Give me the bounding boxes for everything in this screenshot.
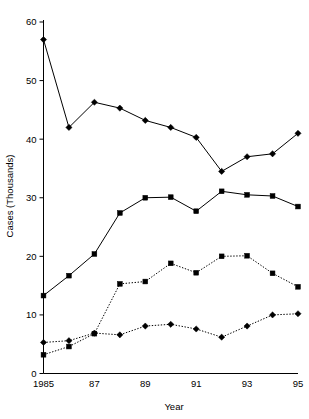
y-tick-label: 50 (26, 75, 37, 86)
data-point-diamond (168, 124, 174, 130)
data-point-diamond (193, 326, 199, 332)
y-tick-label: 20 (26, 251, 37, 262)
data-point-diamond (295, 311, 301, 317)
x-tick-label: 87 (89, 378, 100, 389)
data-point-diamond (244, 154, 250, 160)
data-point-diamond (117, 105, 123, 111)
data-point-square (41, 352, 46, 357)
data-point-diamond (142, 117, 148, 123)
data-point-diamond (168, 321, 174, 327)
series-line (44, 191, 299, 295)
series-line (44, 40, 299, 172)
series-2 (41, 189, 300, 298)
series-1 (40, 36, 301, 174)
data-series-group (40, 36, 301, 357)
data-point-square (41, 293, 46, 298)
x-axis-title: Year (164, 401, 183, 412)
data-point-diamond (40, 339, 46, 345)
data-point-square (143, 279, 148, 284)
x-tick-label: 91 (191, 378, 202, 389)
data-point-diamond (244, 323, 250, 329)
x-tick-label: 89 (140, 378, 151, 389)
series-3 (41, 253, 300, 357)
data-point-square (296, 204, 301, 209)
y-tick-label: 10 (26, 309, 37, 320)
y-axis-tick-labels: 0102030405060 (26, 16, 37, 379)
data-point-square (117, 211, 122, 216)
data-point-diamond (269, 312, 275, 318)
data-point-square (245, 253, 250, 258)
data-point-square (194, 270, 199, 275)
data-point-square (168, 195, 173, 200)
y-axis-title: Cases (Thousands) (4, 155, 15, 238)
data-point-diamond (117, 332, 123, 338)
data-point-diamond (66, 338, 72, 344)
data-point-square (219, 254, 224, 259)
data-point-square (296, 284, 301, 289)
data-point-diamond (142, 323, 148, 329)
y-axis-ticks (40, 22, 44, 374)
series-4 (40, 311, 301, 346)
data-point-square (219, 189, 224, 194)
chart-container: 0102030405060 19858789919395 Cases (Thou… (0, 0, 309, 419)
x-axis: 19858789919395 (33, 374, 303, 389)
y-tick-label: 60 (26, 16, 37, 27)
x-tick-label: 95 (293, 378, 304, 389)
data-point-square (270, 271, 275, 276)
data-point-square (67, 344, 72, 349)
series-line (44, 256, 299, 355)
data-point-square (270, 194, 275, 199)
data-point-square (92, 252, 97, 257)
y-tick-label: 40 (26, 134, 37, 145)
data-point-square (245, 192, 250, 197)
data-point-square (168, 261, 173, 266)
series-line (44, 314, 299, 343)
y-tick-label: 30 (26, 192, 37, 203)
x-tick-label: 1985 (33, 378, 54, 389)
data-point-square (194, 209, 199, 214)
data-point-diamond (40, 36, 46, 42)
data-point-square (67, 273, 72, 278)
line-chart: 0102030405060 19858789919395 Cases (Thou… (0, 0, 309, 419)
data-point-square (117, 281, 122, 286)
y-axis: 0102030405060 (26, 16, 44, 379)
x-tick-label: 93 (242, 378, 253, 389)
data-point-diamond (219, 334, 225, 340)
data-point-square (143, 195, 148, 200)
x-axis-tick-labels: 19858789919395 (33, 378, 303, 389)
